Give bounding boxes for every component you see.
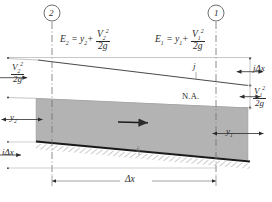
vh2-denominator: 2g bbox=[11, 75, 24, 84]
energy-grade-line bbox=[38, 60, 248, 86]
velocity-head-1-label: V12 2g bbox=[253, 86, 266, 109]
e1-denominator: 2g bbox=[191, 42, 205, 52]
bed-drop-label: iΔx bbox=[2, 148, 14, 157]
e1-numerator: V12 bbox=[191, 28, 205, 42]
e2-plus: + bbox=[87, 34, 93, 44]
e2-numerator: V22 bbox=[96, 28, 110, 42]
datum-label: N.A. bbox=[182, 92, 199, 101]
reach-length-label: Δx bbox=[125, 175, 135, 185]
bed-slope-label: i bbox=[136, 145, 139, 154]
e2-velocity-head: V22 2g bbox=[96, 28, 110, 52]
vh2-numerator: V22 bbox=[11, 62, 24, 75]
e1-plus: + bbox=[182, 34, 188, 44]
e1-lhs-sub: 1 bbox=[161, 40, 164, 46]
energy-equation-1: E1 = y1+ V12 2g bbox=[155, 28, 205, 52]
e2-equals: = bbox=[71, 34, 77, 44]
energy-drop-label: jΔx bbox=[253, 64, 265, 73]
vh1-denominator: 2g bbox=[253, 99, 266, 108]
flow-direction-arrow bbox=[118, 122, 148, 123]
velocity-head-2-label: V22 2g bbox=[11, 62, 24, 85]
figure-canvas: 2 1 E2 = y2+ V22 2g E1 = y1+ V12 2g V22 … bbox=[0, 0, 272, 202]
diagram-svg bbox=[0, 0, 272, 202]
e2-lhs-sub: 2 bbox=[66, 40, 69, 46]
section-marker-1-label: 1 bbox=[214, 9, 219, 18]
section-marker-2-label: 2 bbox=[49, 9, 54, 18]
vh1-numerator: V12 bbox=[253, 86, 266, 99]
e2-denominator: 2g bbox=[96, 42, 110, 52]
energy-equation-2: E2 = y2+ V22 2g bbox=[60, 28, 110, 52]
depth-2-label: y2 bbox=[10, 113, 17, 124]
energy-slope-label: j bbox=[193, 62, 196, 71]
e1-equals: = bbox=[166, 34, 172, 44]
e1-velocity-head: V12 2g bbox=[191, 28, 205, 52]
depth-1-label: y1 bbox=[226, 127, 233, 138]
